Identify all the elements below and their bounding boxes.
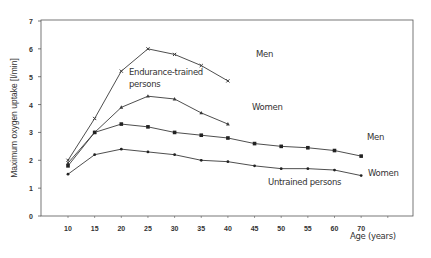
annotation-untrained-persons: Untrained persons (268, 177, 341, 187)
y-tick-label: 2 (29, 157, 33, 164)
marker-dot (93, 153, 96, 156)
y-tick-label: 6 (29, 46, 33, 53)
y-tick-label: 4 (29, 102, 33, 109)
marker-dot (67, 173, 70, 176)
x-tick-label: 25 (144, 225, 152, 232)
annotation-trained-men: Men (256, 49, 273, 59)
marker-square (173, 131, 177, 135)
y-tick-label: 1 (29, 185, 33, 192)
marker-square (279, 145, 283, 149)
marker-dot (200, 159, 203, 162)
x-tick-label: 60 (331, 225, 339, 232)
marker-dot (333, 169, 336, 172)
x-tick-label: 15 (91, 225, 99, 232)
annotation-trained-women: Women (252, 102, 283, 112)
series-line-0 (68, 49, 228, 160)
marker-square (199, 133, 203, 137)
marker-square (146, 125, 150, 129)
y-axis-label: Maximum oxygen uptake [l/min] (9, 58, 19, 178)
x-tick-label: 45 (251, 225, 259, 232)
marker-square (66, 164, 70, 168)
series-line-2 (68, 124, 361, 166)
marker-x (93, 117, 96, 120)
x-tick-label: 40 (224, 225, 232, 232)
marker-square (306, 146, 310, 150)
marker-dot (173, 153, 176, 156)
marker-square (333, 149, 337, 153)
marker-x (120, 70, 123, 73)
marker-square (253, 142, 257, 146)
marker-dot (360, 174, 363, 177)
marker-dot (147, 151, 150, 154)
marker-dot (120, 148, 123, 151)
line-chart: 01234567101520253035404550556070 (0, 0, 431, 258)
x-tick-label: 20 (117, 225, 125, 232)
annotation-untrained-women: Women (368, 168, 399, 178)
x-tick-label: 10 (64, 225, 72, 232)
marker-square (120, 122, 124, 126)
x-tick-label: 55 (304, 225, 312, 232)
marker-x (226, 79, 229, 82)
marker-dot (280, 167, 283, 170)
x-tick-label: 30 (171, 225, 179, 232)
y-tick-label: 0 (29, 213, 33, 220)
marker-square (226, 136, 230, 140)
y-tick-label: 5 (29, 74, 33, 81)
x-tick-label: 35 (197, 225, 205, 232)
annotation-endurance-trained: Endurance-trained (129, 67, 203, 77)
y-tick-label: 7 (29, 18, 33, 25)
series-line-3 (68, 149, 361, 175)
marker-dot (253, 164, 256, 167)
marker-dot (306, 167, 309, 170)
x-axis-label: Age (years) (350, 231, 396, 241)
marker-square (93, 131, 97, 135)
marker-dot (227, 160, 230, 163)
annotation-untrained-men: Men (367, 132, 384, 142)
y-tick-label: 3 (29, 129, 33, 136)
marker-square (359, 154, 363, 158)
plot-frame (41, 20, 413, 216)
x-tick-label: 50 (277, 225, 285, 232)
annotation-endurance-persons: persons (129, 79, 160, 89)
